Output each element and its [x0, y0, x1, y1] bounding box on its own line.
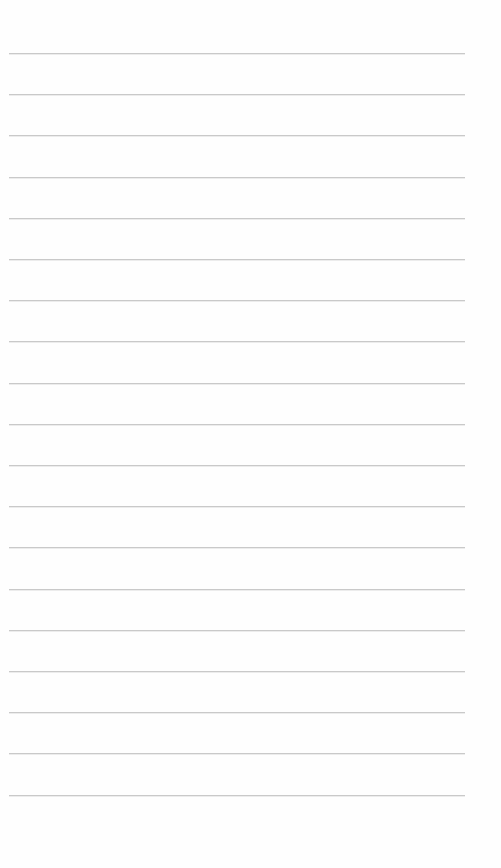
- ruled-line: [9, 341, 465, 342]
- ruled-line: [9, 630, 465, 631]
- ruled-line: [9, 53, 465, 54]
- ruled-line: [9, 424, 465, 425]
- ruled-line: [9, 300, 465, 301]
- ruled-line: [9, 259, 465, 260]
- ruled-line: [9, 712, 465, 713]
- ruled-line: [9, 671, 465, 672]
- ruled-line: [9, 589, 465, 590]
- ruled-line: [9, 795, 465, 796]
- lined-paper-sheet: [0, 0, 501, 868]
- ruled-line: [9, 753, 465, 754]
- ruled-line: [9, 218, 465, 219]
- ruled-line: [9, 94, 465, 95]
- ruled-line: [9, 177, 465, 178]
- ruled-line: [9, 465, 465, 466]
- ruled-line: [9, 383, 465, 384]
- ruled-line: [9, 506, 465, 507]
- ruled-line: [9, 135, 465, 136]
- ruled-line: [9, 547, 465, 548]
